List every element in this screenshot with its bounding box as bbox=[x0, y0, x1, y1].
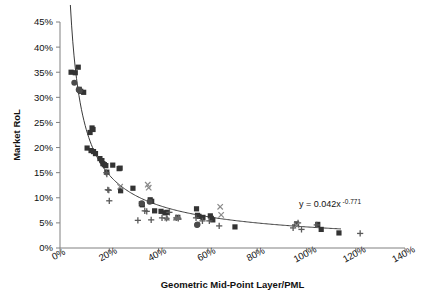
scatter-chart: 0%5%10%15%20%25%30%35%40%45%0%20%40%60%8… bbox=[0, 0, 432, 297]
y-tick-label: 10% bbox=[34, 192, 54, 203]
data-point-circle bbox=[77, 88, 83, 94]
data-point-circle bbox=[71, 80, 77, 86]
chart-container: 0%5%10%15%20%25%30%35%40%45%0%20%40%60%8… bbox=[0, 0, 432, 297]
data-point-square bbox=[210, 217, 215, 222]
data-point-square bbox=[194, 206, 199, 211]
y-tick-label: 20% bbox=[34, 142, 54, 153]
data-point-square bbox=[152, 208, 157, 213]
data-point-circle bbox=[147, 199, 153, 205]
data-point-square bbox=[130, 186, 135, 191]
data-point-square bbox=[336, 230, 341, 235]
y-axis-title: Market RoL bbox=[11, 109, 22, 161]
y-tick-label: 40% bbox=[34, 42, 54, 53]
y-tick-label: 45% bbox=[34, 16, 54, 27]
data-point-square bbox=[73, 70, 78, 75]
data-point-square bbox=[103, 163, 108, 168]
data-point-square bbox=[319, 227, 324, 232]
data-point-circle bbox=[195, 221, 201, 227]
y-tick-label: 30% bbox=[34, 92, 54, 103]
data-point-square bbox=[93, 151, 98, 156]
y-tick-label: 25% bbox=[34, 117, 54, 128]
data-point-circle bbox=[139, 200, 145, 206]
data-point-square bbox=[232, 224, 237, 229]
y-tick-label: 5% bbox=[39, 217, 53, 228]
y-tick-label: 15% bbox=[34, 167, 54, 178]
data-point-square bbox=[118, 166, 123, 171]
data-point-square bbox=[90, 127, 95, 132]
data-point-square bbox=[76, 65, 81, 70]
y-tick-label: 35% bbox=[34, 67, 54, 78]
x-axis-title: Geometric Mid-Point Layer/PML bbox=[161, 279, 305, 290]
data-point-square bbox=[110, 163, 115, 168]
